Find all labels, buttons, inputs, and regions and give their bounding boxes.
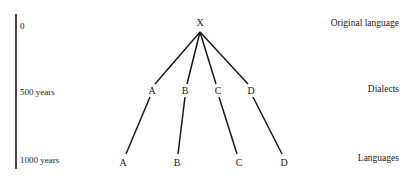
- level-label-languages: Languages: [358, 153, 399, 164]
- edge-x-to-dialect-d: [200, 32, 248, 84]
- edge-dialect-d-to-language-d: [253, 97, 282, 154]
- edge-dialect-a-to-language-a: [126, 97, 150, 154]
- node-language-c: C: [236, 157, 243, 168]
- node-dialect-d: D: [247, 85, 254, 96]
- level-label-dialects: Dialects: [368, 84, 399, 95]
- node-dialect-c: C: [215, 85, 222, 96]
- node-language-a: A: [119, 157, 126, 168]
- node-language-d: D: [280, 157, 287, 168]
- edge-dialect-c-to-language-c: [219, 97, 237, 154]
- node-dialect-a: A: [148, 85, 155, 96]
- tick-label-500-years: 500 years: [20, 87, 55, 97]
- node-dialect-b: B: [182, 85, 189, 96]
- node-root-x: X: [196, 17, 203, 28]
- language-family-tree-diagram: 0 500 years 1000 years X A B C D A B C D…: [0, 0, 412, 182]
- tick-label-1000-years: 1000 years: [20, 155, 59, 165]
- edge-dialect-b-to-language-b: [178, 97, 185, 154]
- level-label-original-language: Original language: [331, 18, 399, 29]
- node-language-b: B: [174, 157, 181, 168]
- tick-label-0: 0: [20, 21, 25, 31]
